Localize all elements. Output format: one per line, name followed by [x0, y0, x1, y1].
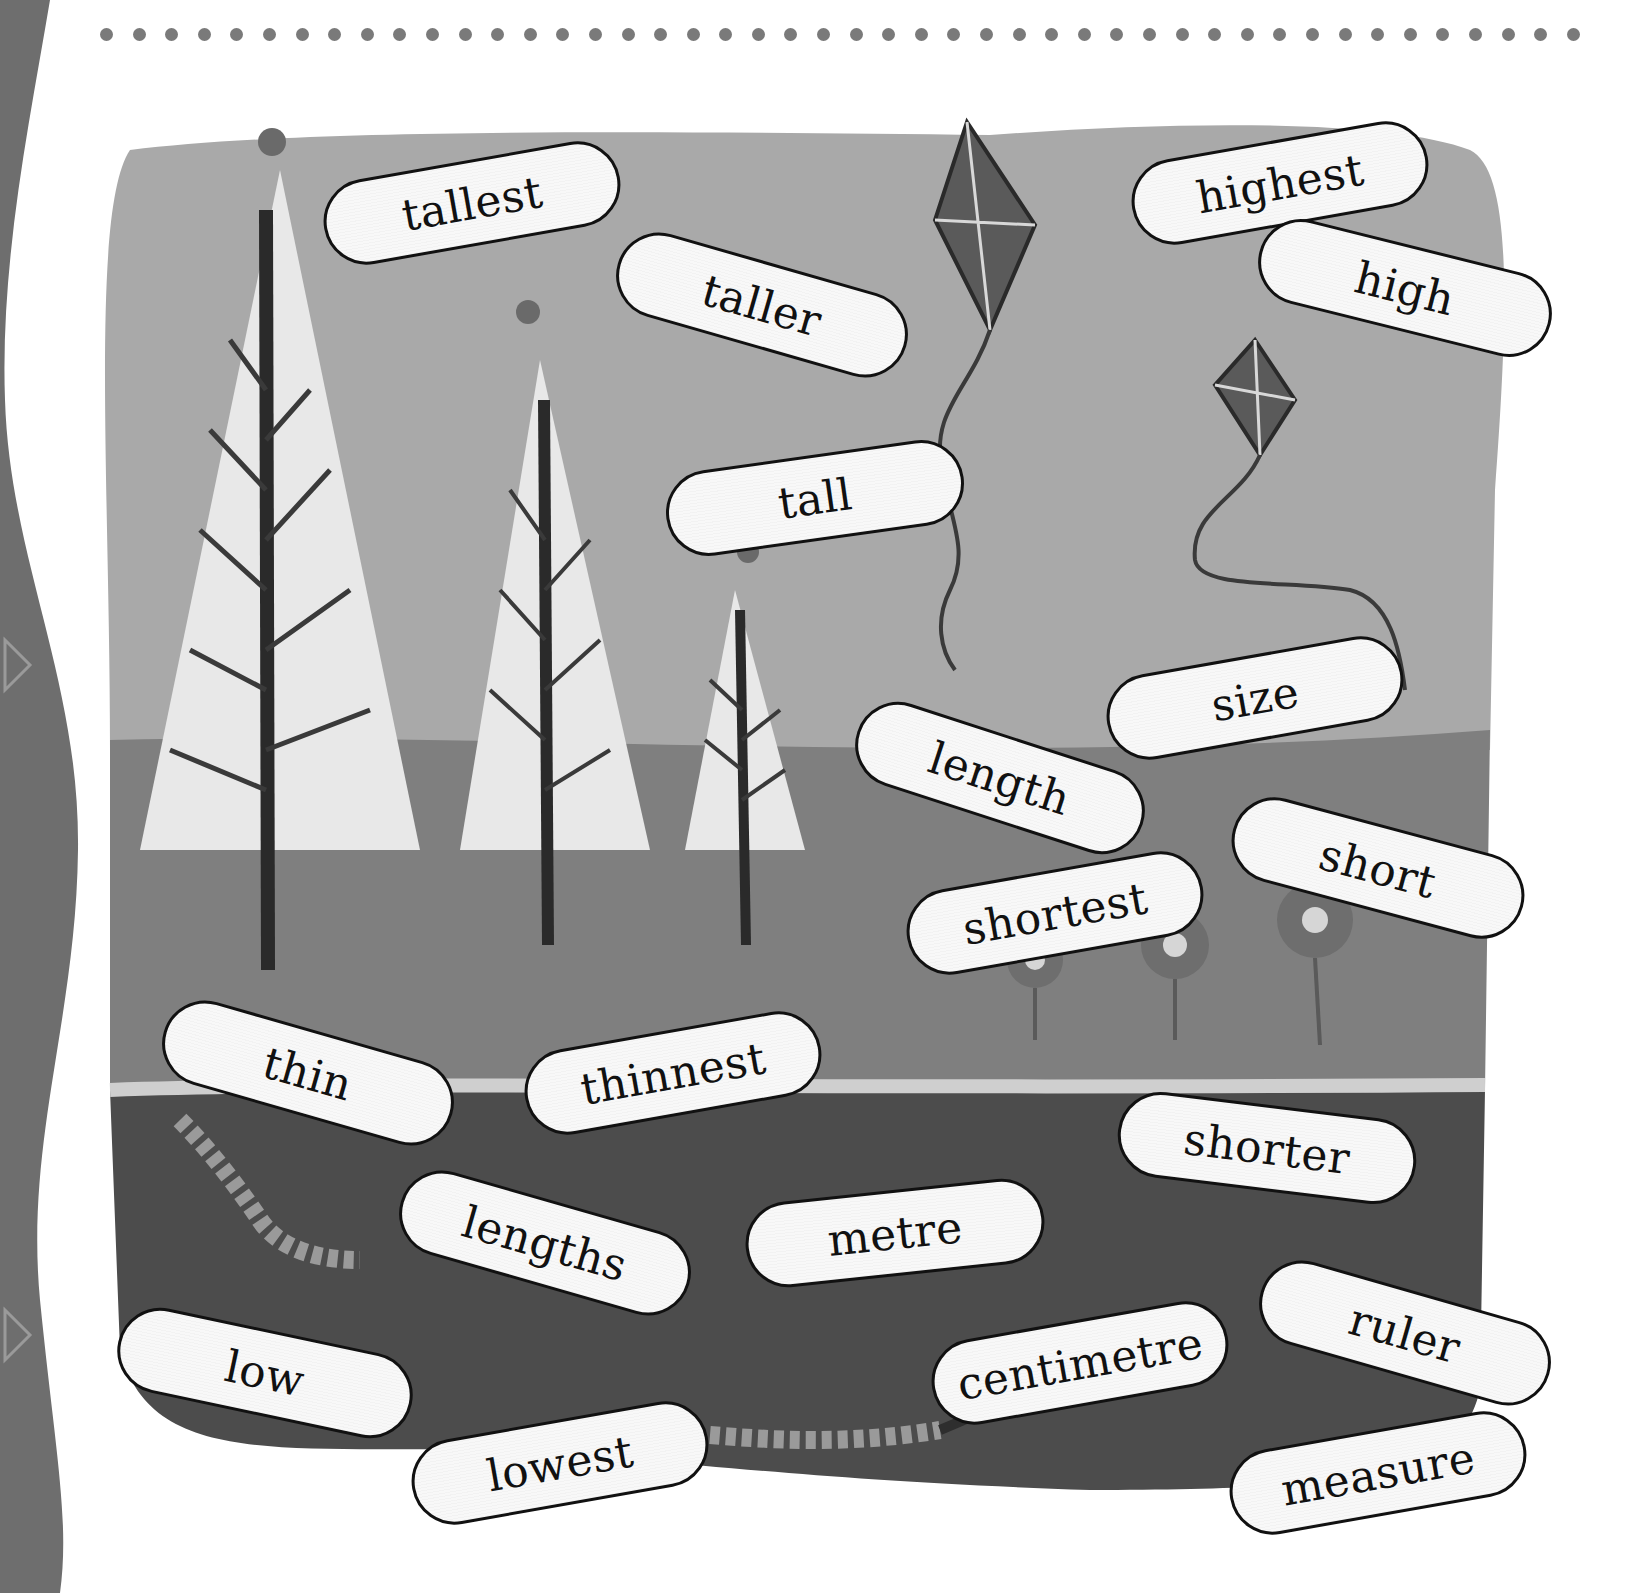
divider-dot	[654, 28, 667, 41]
divider-dot	[393, 28, 406, 41]
divider-dot	[198, 28, 211, 41]
divider-dot	[1241, 28, 1254, 41]
divider-dot	[817, 28, 830, 41]
divider-dot	[752, 28, 765, 41]
divider-dot	[491, 28, 504, 41]
divider-dot	[165, 28, 178, 41]
divider-dot	[1534, 28, 1547, 41]
divider-dot	[556, 28, 569, 41]
divider-dot	[1143, 28, 1156, 41]
divider-dot	[1078, 28, 1091, 41]
divider-dot	[328, 28, 341, 41]
divider-dot	[100, 28, 113, 41]
divider-dot	[1371, 28, 1384, 41]
divider-dot	[1567, 28, 1580, 41]
divider-dot	[589, 28, 602, 41]
divider-dot	[947, 28, 960, 41]
dotted-divider	[100, 24, 1580, 44]
divider-dot	[1436, 28, 1449, 41]
divider-dot	[524, 28, 537, 41]
divider-dot	[1469, 28, 1482, 41]
divider-dot	[784, 28, 797, 41]
divider-dot	[361, 28, 374, 41]
divider-dot	[719, 28, 732, 41]
divider-dot	[850, 28, 863, 41]
divider-dot	[426, 28, 439, 41]
divider-dot	[459, 28, 472, 41]
divider-dot	[1208, 28, 1221, 41]
measurement-vocabulary-scene: tallesttallertallhighesthighsizelengthsh…	[90, 90, 1570, 1530]
wavy-border-icon	[0, 0, 90, 1593]
divider-dot	[687, 28, 700, 41]
divider-dot	[133, 28, 146, 41]
divider-dot	[622, 28, 635, 41]
worm-lower-icon	[710, 1430, 940, 1440]
divider-dot	[1339, 28, 1352, 41]
divider-dot	[296, 28, 309, 41]
decorative-border-strip	[0, 0, 90, 1593]
divider-dot	[263, 28, 276, 41]
divider-dot	[1013, 28, 1026, 41]
divider-dot	[1273, 28, 1286, 41]
divider-dot	[1502, 28, 1515, 41]
divider-dot	[1045, 28, 1058, 41]
divider-dot	[1306, 28, 1319, 41]
divider-dot	[1110, 28, 1123, 41]
divider-dot	[1404, 28, 1417, 41]
divider-dot	[230, 28, 243, 41]
divider-dot	[882, 28, 895, 41]
divider-dot	[980, 28, 993, 41]
divider-dot	[915, 28, 928, 41]
divider-dot	[1176, 28, 1189, 41]
